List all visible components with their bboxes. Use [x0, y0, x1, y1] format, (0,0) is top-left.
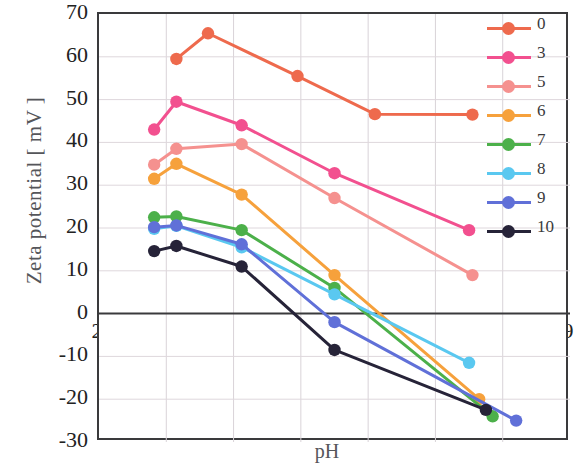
legend-item-6[interactable]: 6 — [487, 101, 579, 130]
data-point — [235, 238, 247, 250]
y-tick-label: -20 — [0, 384, 88, 410]
legend-item-8[interactable]: 8 — [487, 159, 579, 188]
legend-label: 5 — [537, 72, 546, 92]
legend-item-5[interactable]: 5 — [487, 72, 579, 101]
data-point — [170, 96, 182, 108]
legend: 035678910 — [487, 14, 579, 246]
legend-label: 6 — [537, 101, 546, 121]
series-7 — [148, 210, 499, 422]
x-axis-title: pH — [297, 440, 357, 463]
y-tick-label: 50 — [0, 85, 88, 111]
data-point — [328, 316, 340, 328]
data-point — [463, 357, 475, 369]
legend-label: 8 — [537, 159, 546, 179]
data-point — [291, 70, 303, 82]
zeta-potential-chart: Zeta potential [ mV ] 706050403020100-10… — [0, 0, 586, 464]
series-line-0 — [176, 33, 472, 114]
legend-marker-dot — [502, 51, 515, 64]
legend-label: 0 — [537, 14, 546, 34]
data-point — [235, 224, 247, 236]
data-point — [466, 108, 478, 120]
y-tick-label: -10 — [0, 341, 88, 367]
legend-item-9[interactable]: 9 — [487, 188, 579, 217]
legend-marker-dot — [502, 109, 515, 122]
data-point — [148, 158, 160, 170]
legend-item-0[interactable]: 0 — [487, 14, 579, 43]
data-point — [369, 108, 381, 120]
series-10 — [148, 240, 492, 416]
legend-label: 9 — [537, 188, 546, 208]
legend-item-3[interactable]: 3 — [487, 43, 579, 72]
series-8 — [148, 220, 475, 369]
data-point — [148, 221, 160, 233]
y-tick-label: 20 — [0, 213, 88, 239]
data-point — [170, 143, 182, 155]
y-tick-label: 70 — [0, 0, 88, 25]
data-point — [235, 260, 247, 272]
series-line-3 — [154, 102, 469, 230]
data-point — [510, 414, 522, 426]
series-5 — [148, 138, 479, 281]
data-point — [235, 119, 247, 131]
legend-marker-dot — [502, 167, 515, 180]
y-tick-label: 0 — [0, 299, 88, 325]
series-line-7 — [154, 216, 492, 416]
data-point — [170, 240, 182, 252]
data-point — [466, 269, 478, 281]
data-point — [328, 167, 340, 179]
legend-marker-dot — [502, 80, 515, 93]
y-tick-label: -30 — [0, 427, 88, 453]
legend-item-10[interactable]: 10 — [487, 217, 579, 246]
data-point — [148, 173, 160, 185]
data-point — [170, 158, 182, 170]
y-tick-label: 40 — [0, 127, 88, 153]
data-point — [170, 219, 182, 231]
legend-marker-dot — [502, 196, 515, 209]
legend-label: 7 — [537, 130, 546, 150]
data-point — [202, 27, 214, 39]
data-point — [148, 245, 160, 257]
data-point — [328, 288, 340, 300]
legend-label: 10 — [537, 217, 554, 237]
legend-item-7[interactable]: 7 — [487, 130, 579, 159]
data-point — [235, 188, 247, 200]
legend-marker-dot — [502, 22, 515, 35]
data-point — [148, 123, 160, 135]
data-point — [328, 269, 340, 281]
legend-marker-dot — [502, 225, 515, 238]
legend-marker-dot — [502, 138, 515, 151]
data-point — [328, 344, 340, 356]
series-3 — [148, 96, 475, 237]
data-point — [463, 224, 475, 236]
series-0 — [170, 27, 478, 121]
legend-label: 3 — [537, 43, 546, 63]
y-tick-label: 60 — [0, 42, 88, 68]
y-tick-label: 30 — [0, 170, 88, 196]
data-point — [480, 404, 492, 416]
y-tick-label: 10 — [0, 256, 88, 282]
data-point — [235, 138, 247, 150]
data-point — [328, 192, 340, 204]
data-point — [170, 53, 182, 65]
